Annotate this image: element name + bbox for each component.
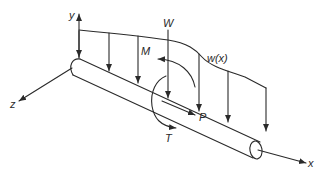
distributed-load-label: w(x) <box>207 52 228 64</box>
torque-t: T <box>152 76 176 144</box>
point-load-w: W <box>163 17 175 98</box>
z-axis-label: z <box>9 98 16 110</box>
beam <box>71 59 264 160</box>
x-axis: x <box>258 150 314 169</box>
point-load-label: W <box>163 17 175 29</box>
distributed-load-curve <box>79 30 266 88</box>
distributed-load-arrows <box>79 31 228 122</box>
axial-load-label: P <box>199 111 207 123</box>
x-axis-label: x <box>307 157 314 169</box>
beam-loading-diagram: y z <box>0 0 319 173</box>
y-axis-label: y <box>68 9 76 21</box>
torque-label: T <box>165 132 173 144</box>
z-axis: z <box>9 68 72 110</box>
moment-label: M <box>141 45 151 57</box>
y-axis: y <box>68 9 79 58</box>
